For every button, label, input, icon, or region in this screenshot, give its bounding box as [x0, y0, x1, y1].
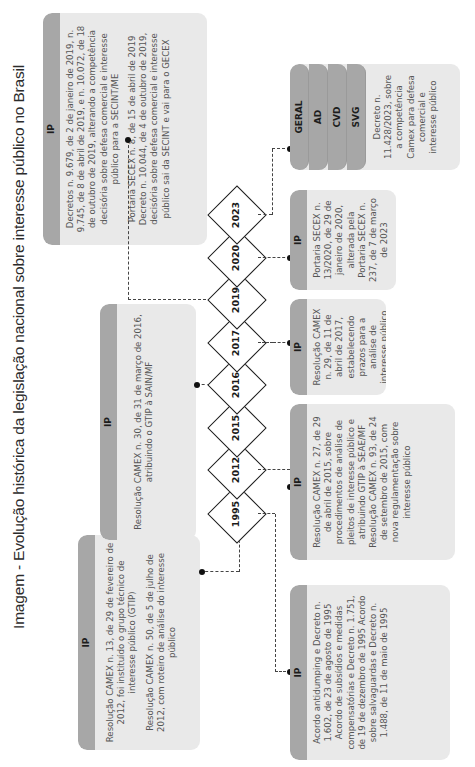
header-geral: GERAL — [290, 64, 309, 170]
year-label: 2023 — [230, 185, 241, 245]
box-text: Decretos n. 9.679, de 2 de janeiro de 20… — [65, 19, 121, 239]
box-text: Resolução CAMEX n. 27, de 29 de abril de… — [312, 414, 413, 550]
box-header: IP — [290, 404, 307, 560]
box-2015: IP Resolução CAMEX n. 27, de 29 de abril… — [290, 404, 455, 560]
header-ad: AD — [309, 64, 328, 170]
box-header: IP — [290, 585, 307, 760]
box-header: IP — [43, 13, 60, 245]
box-2019: IP Decretos n. 9.679, de 2 de janeiro de… — [43, 13, 207, 245]
box-2017: IP Resolução CAMEX n. 29, de 11 de abril… — [290, 299, 386, 395]
connector-2023-h — [272, 149, 273, 215]
connector-2020-v — [258, 257, 290, 258]
connector-2019-h2 — [128, 140, 129, 300]
connector-1995-h — [275, 514, 276, 672]
box-text: Portaria SECEX n. 13/2020, de 29 de jane… — [312, 196, 390, 284]
connector-2017-v — [258, 342, 273, 343]
header-svg: SVG — [347, 64, 366, 170]
box-text: Resolução CAMEX n. 30, de 31 de março de… — [133, 310, 155, 534]
connector-dot — [194, 382, 200, 388]
box-text: Resolução CAMEX n. 13, de 29 de fevereir… — [105, 541, 139, 744]
box-2020: IP Portaria SECEX n. 13/2020, de 29 de j… — [290, 190, 396, 290]
box-text: Resolução CAMEX n. 29, de 11 de abril de… — [312, 305, 386, 389]
box-header: IP — [290, 190, 307, 290]
connector-2019-top — [128, 299, 216, 300]
box-2016: IP Resolução CAMEX n. 30, de 31 de março… — [100, 304, 196, 540]
connector-1995-v0 — [258, 513, 275, 514]
box-text: Acordo antidumping e Decreto n. 1.602, d… — [312, 595, 390, 750]
box-text: Decreto n. 11.428/2023, sobre a competên… — [372, 72, 439, 162]
box-text: Resolução CAMEX n. 50, de 5 de julho de … — [145, 541, 179, 744]
timeline-diagram: Imagem - Evolução histórica da legislaçã… — [0, 0, 475, 767]
connector-2012-v — [200, 571, 239, 572]
box-1995: IP Acordo antidumping e Decreto n. 1.602… — [290, 585, 450, 760]
box-headers: GERAL AD CVD SVG — [290, 64, 366, 170]
box-2023: GERAL AD CVD SVG Decreto n. 11.428/2023,… — [290, 64, 460, 170]
box-text: Portaria SECEX n. 8, de 15 de abril de 2… — [127, 19, 172, 239]
connector-dot — [199, 569, 205, 575]
box-header: IP — [290, 299, 307, 395]
box-header: IP — [100, 304, 117, 540]
box-header: IP — [78, 535, 95, 750]
diagram-title: Imagem - Evolução histórica da legislaçã… — [10, 47, 28, 647]
connector-2015-v — [258, 469, 290, 470]
header-cvd: CVD — [328, 64, 347, 170]
connector-dot — [125, 137, 131, 143]
connector-2023-v — [258, 214, 272, 215]
box-2012: IP Resolução CAMEX n. 13, de 29 de fever… — [78, 535, 200, 750]
